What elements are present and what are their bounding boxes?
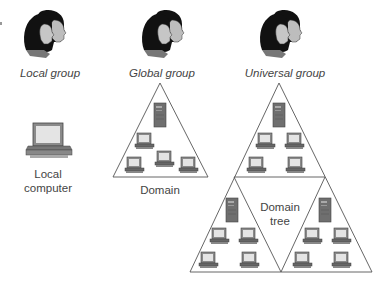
global-group-label: Global group — [120, 67, 204, 79]
workstation-icon — [286, 157, 305, 173]
local-group-label: Local group — [8, 67, 92, 79]
workstation-icon — [256, 133, 275, 149]
workstation-icon — [332, 228, 351, 244]
local-computer-label-line2: computer — [18, 181, 78, 195]
domain-label: Domain — [130, 184, 190, 196]
domain-tree-label: Domain tree — [252, 200, 308, 228]
domain-tree-label-line2: tree — [252, 214, 308, 228]
universal-group-icon — [260, 10, 302, 58]
workstation-icon — [155, 151, 174, 167]
server-icon — [226, 198, 238, 222]
local-computer-label-line1: Local — [18, 167, 78, 181]
workstation-icon — [239, 228, 258, 244]
domain-tree-label-line1: Domain — [252, 200, 308, 214]
universal-group-label: Universal group — [235, 67, 335, 79]
workstation-icon — [293, 252, 312, 268]
artifact-mark — [0, 22, 2, 25]
workstation-icon — [179, 157, 198, 173]
server-icon — [319, 198, 331, 222]
local-computer-label: Local computer — [18, 167, 78, 195]
workstation-icon — [332, 252, 351, 268]
server-icon — [154, 103, 166, 127]
workstation-icon — [199, 252, 218, 268]
global-group-icon — [142, 10, 184, 58]
local-computer-icon — [26, 123, 72, 158]
workstation-icon — [135, 133, 154, 149]
domain-triangle — [113, 83, 208, 177]
local-group-icon — [24, 10, 66, 58]
workstation-icon — [210, 228, 229, 244]
workstation-icon — [285, 133, 304, 149]
workstation-icon — [125, 157, 144, 173]
server-icon — [273, 103, 285, 127]
workstation-icon — [247, 157, 266, 173]
diagram-canvas — [0, 0, 390, 285]
domain-tree-triangle — [190, 83, 372, 272]
workstation-icon — [303, 228, 322, 244]
workstation-icon — [240, 252, 259, 268]
